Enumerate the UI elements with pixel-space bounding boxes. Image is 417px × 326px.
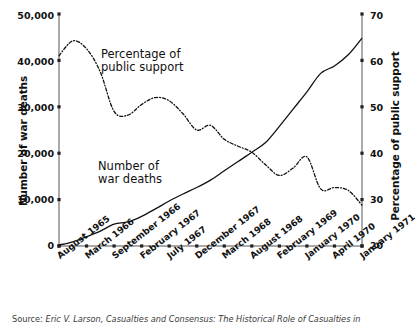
source-caption: Source: Eric V. Larson, Casualties and C… (12, 314, 404, 324)
caption-text: Eric V. Larson, Casualties and Consensus… (46, 314, 361, 324)
annotation-public-support: Percentage of public support (101, 48, 183, 74)
annotation-war-deaths: Number of war deaths (98, 160, 162, 186)
caption-lead: Source: (12, 314, 43, 324)
